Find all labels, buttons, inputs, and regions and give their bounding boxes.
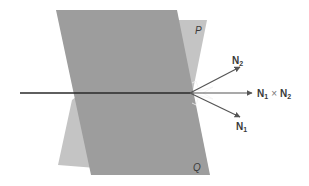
planes-diagram: P Q N2 N1 N1×N2 xyxy=(0,0,309,186)
plane-p-label: P xyxy=(195,25,202,36)
vector-n2-arrow xyxy=(190,67,240,93)
cross-product-label: N1×N2 xyxy=(257,88,291,100)
n2-label: N2 xyxy=(232,55,243,67)
plane-q-label: Q xyxy=(193,162,201,173)
n1-label: N1 xyxy=(236,121,247,133)
